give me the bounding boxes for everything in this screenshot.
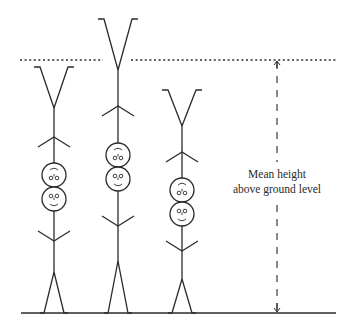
mean-height-label: Mean height above ground level: [233, 167, 321, 197]
upper-legs: [98, 19, 118, 70]
lower-legs: [104, 261, 118, 313]
upper-legs: [182, 90, 202, 126]
lower-legs: [40, 272, 54, 313]
lower-legs: [182, 279, 196, 313]
upper-legs: [34, 67, 54, 108]
figure-right: [162, 90, 202, 313]
height-diagram: [0, 0, 354, 329]
label-line-1: Mean height: [233, 167, 321, 182]
lower-legs: [54, 272, 68, 313]
lower-legs: [168, 279, 182, 313]
upper-legs: [54, 67, 74, 108]
upper-legs: [118, 19, 138, 70]
figure-middle: [98, 19, 138, 313]
stick-figures: [34, 19, 202, 313]
upper-legs: [162, 90, 182, 126]
lower-legs: [118, 261, 132, 313]
figure-left: [34, 67, 74, 313]
label-line-2: above ground level: [233, 182, 321, 197]
